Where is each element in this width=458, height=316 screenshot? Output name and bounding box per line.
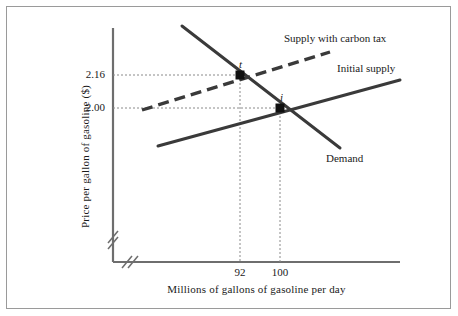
curves — [142, 26, 400, 148]
guide-lines — [113, 75, 280, 262]
chart-figure: Price per gallon of gasoline ($) Million… — [0, 0, 458, 316]
initial-supply-label: Initial supply — [337, 62, 395, 74]
carbon-tax-supply-label: Supply with carbon tax — [284, 32, 386, 44]
demand-label: Demand — [326, 152, 363, 164]
x-tick-label-92: 92 — [220, 266, 260, 278]
x-axis-title: Millions of gallons of gasoline per day — [113, 283, 400, 295]
carbon-tax-supply-curve — [142, 52, 330, 110]
y-tick-216-wrap: 2.16 — [65, 68, 109, 82]
equilibrium-markers — [236, 71, 285, 113]
point-label-i: i — [280, 91, 283, 103]
initial-supply-curve — [158, 80, 400, 146]
marker-point-t — [236, 71, 245, 80]
x-tick-label-100: 100 — [260, 266, 300, 278]
y-tick-200-wrap: 2.00 — [65, 101, 109, 115]
y-tick-label-216: 2.16 — [65, 68, 105, 80]
marker-point-i — [276, 104, 285, 113]
demand-curve — [182, 26, 340, 148]
y-tick-label-200: 2.00 — [65, 101, 105, 113]
point-label-t: t — [239, 58, 242, 70]
